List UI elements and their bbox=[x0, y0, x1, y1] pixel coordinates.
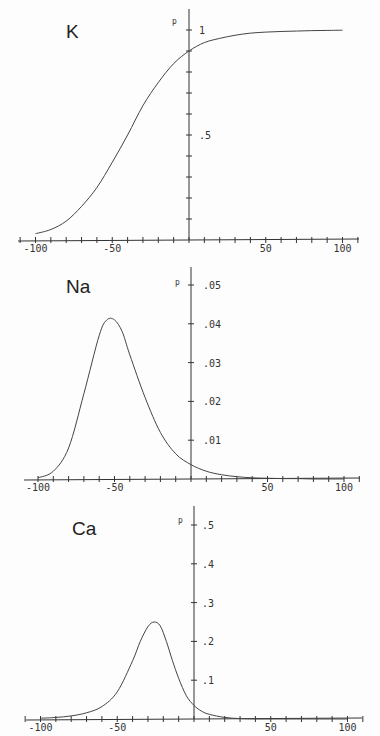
chart-title-ca: Ca bbox=[72, 518, 97, 539]
voltage-probability-charts: K p -100-5050100.51 Na p -100-5050100.01… bbox=[0, 0, 380, 736]
x-tick-label: 50 bbox=[265, 722, 277, 733]
y-tick-label: .02 bbox=[203, 396, 221, 407]
y-tick-label: .1 bbox=[202, 675, 214, 686]
y-tick-label: .03 bbox=[203, 358, 221, 369]
x-tick-label: -50 bbox=[105, 482, 123, 493]
x-tick-label: 100 bbox=[333, 243, 351, 254]
chart-na: Na p -100-5050100.01.02.03.04.05 bbox=[24, 267, 360, 493]
chart-k: K p -100-5050100.51 bbox=[18, 9, 359, 254]
y-tick-label: .05 bbox=[203, 280, 221, 291]
axes-ca: -100-5050100.1.2.3.4.5 bbox=[25, 506, 363, 733]
x-tick-label: 100 bbox=[338, 722, 356, 733]
chart-title-k: K bbox=[66, 21, 79, 42]
x-tick-label: -100 bbox=[26, 482, 50, 493]
y-tick-label: .4 bbox=[202, 559, 214, 570]
x-tick-label: -100 bbox=[28, 722, 52, 733]
y-tick-label: .01 bbox=[203, 435, 221, 446]
x-tick-label: -50 bbox=[108, 722, 126, 733]
y-tick-label: 1 bbox=[199, 25, 205, 36]
x-tick-label: 100 bbox=[335, 482, 353, 493]
y-tick-label: .04 bbox=[203, 319, 221, 330]
x-tick-label: 50 bbox=[261, 482, 273, 493]
y-axis-label-na: p bbox=[175, 278, 180, 287]
y-tick-label: .3 bbox=[202, 598, 214, 609]
x-tick-label: -50 bbox=[103, 243, 121, 254]
axes-na: -100-5050100.01.02.03.04.05 bbox=[24, 267, 360, 493]
axes-k: -100-5050100.51 bbox=[18, 9, 359, 254]
chart-title-na: Na bbox=[66, 276, 91, 297]
x-tick-label: 50 bbox=[260, 243, 272, 254]
y-tick-label: .5 bbox=[202, 520, 214, 531]
y-tick-label: .2 bbox=[202, 636, 214, 647]
x-tick-label: -100 bbox=[23, 243, 47, 254]
chart-ca: Ca p -100-5050100.1.2.3.4.5 bbox=[25, 506, 363, 733]
y-axis-label-ca: p bbox=[178, 516, 183, 525]
y-tick-label: .5 bbox=[199, 130, 211, 141]
y-axis-label-k: p bbox=[172, 17, 177, 26]
